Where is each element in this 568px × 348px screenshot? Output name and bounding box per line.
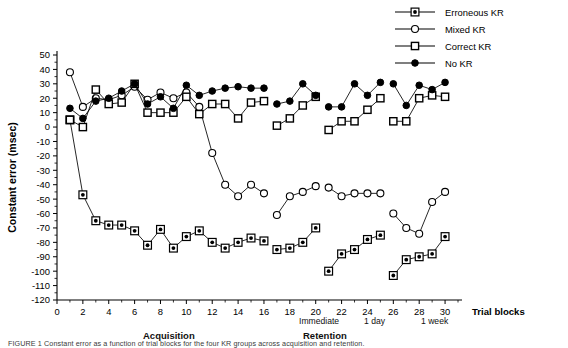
data-point-dot: [366, 238, 370, 242]
data-point: [416, 95, 423, 102]
data-point: [131, 81, 138, 88]
data-point: [351, 81, 358, 88]
data-point: [260, 98, 267, 105]
data-point-dot: [146, 243, 150, 247]
data-point: [247, 99, 254, 106]
retention-sub-immediate: Immediate: [299, 316, 339, 326]
data-point: [79, 123, 86, 130]
data-point: [442, 188, 449, 195]
data-point: [170, 105, 177, 112]
data-point: [222, 181, 229, 188]
legend-marker-2: [411, 42, 418, 49]
series-line: [277, 228, 316, 250]
data-point: [157, 93, 164, 100]
x-tick-label: 2: [80, 306, 85, 317]
data-point: [286, 193, 293, 200]
series-line: [277, 186, 316, 215]
data-point: [286, 115, 293, 122]
data-point: [312, 92, 319, 99]
y-tick-label: -10: [36, 136, 50, 147]
y-tick-label: -30: [36, 165, 50, 176]
y-tick-label: -90: [36, 251, 50, 262]
data-point-dot: [81, 193, 85, 197]
x-tick-label: 10: [181, 306, 191, 317]
data-point: [299, 102, 306, 109]
data-point-dot: [301, 240, 305, 244]
data-point: [390, 81, 397, 88]
data-point: [144, 101, 151, 108]
data-point: [274, 101, 281, 108]
data-point-dot: [443, 235, 447, 239]
data-point-dot: [378, 233, 382, 237]
data-point: [170, 95, 177, 102]
data-point-dot: [417, 255, 421, 259]
y-tick-label: -110: [32, 280, 50, 291]
data-point-dot: [288, 246, 292, 250]
data-point: [92, 86, 99, 93]
y-tick-label: 0: [45, 121, 50, 132]
data-point: [118, 99, 125, 106]
data-point: [209, 88, 216, 95]
data-point-dot: [327, 269, 331, 273]
data-point-dot: [159, 227, 163, 231]
data-point: [222, 100, 229, 107]
data-point: [66, 69, 73, 76]
y-tick-label: 10: [40, 107, 50, 118]
x-tick-label: 18: [285, 306, 295, 317]
data-point: [248, 85, 255, 92]
data-point-dot: [404, 258, 408, 262]
data-point: [364, 190, 371, 197]
data-point: [325, 104, 332, 111]
data-point: [441, 93, 448, 100]
x-tick-label: 14: [233, 306, 243, 317]
legend-label-1: Mixed KR: [445, 24, 486, 35]
legend-label-3: No KR: [445, 58, 473, 69]
data-point-dot: [184, 235, 188, 239]
data-point: [416, 82, 423, 89]
data-point: [183, 82, 190, 89]
data-point: [377, 79, 384, 86]
data-point: [364, 106, 371, 113]
legend-marker-3: [412, 60, 419, 67]
data-point: [351, 190, 358, 197]
data-point: [299, 188, 306, 195]
data-point-dot: [430, 252, 434, 256]
data-point: [93, 98, 100, 105]
figure-caption: FIGURE 1 Constant error as a function of…: [8, 340, 564, 348]
data-point-dot: [133, 229, 137, 233]
data-point: [222, 85, 229, 92]
data-point: [157, 109, 164, 116]
y-tick-label: -20: [36, 150, 50, 161]
data-point-dot: [197, 229, 201, 233]
x-tick-label: 0: [54, 306, 59, 317]
data-point: [377, 95, 384, 102]
data-point: [312, 183, 319, 190]
data-point-dot: [94, 219, 98, 223]
legend-marker-0-dot: [413, 10, 417, 14]
series-erroneous-kr: [66, 116, 449, 279]
data-point: [338, 118, 345, 125]
data-point: [429, 199, 436, 206]
data-point: [299, 81, 306, 88]
legend-marker-1: [412, 26, 419, 33]
chart-svg: 50403020100-10-20-30-40-50-60-70-80-90-1…: [0, 0, 568, 348]
data-point: [118, 88, 125, 95]
data-point: [429, 86, 436, 93]
y-axis-title: Constant error (msec): [6, 122, 18, 233]
x-tick-label: 4: [106, 306, 111, 317]
legend-label-2: Correct KR: [445, 41, 492, 52]
data-point: [209, 150, 216, 157]
data-point: [196, 103, 203, 110]
data-point: [235, 83, 242, 90]
x-tick-label: 8: [158, 306, 163, 317]
retention-sub-one-week: 1 week: [421, 316, 448, 326]
x-tick-label: 16: [259, 306, 269, 317]
data-point: [338, 193, 345, 200]
data-point: [67, 105, 74, 112]
series-line: [393, 192, 445, 234]
data-point: [416, 230, 423, 237]
y-tick-label: -80: [36, 237, 50, 248]
y-tick-label: -40: [36, 179, 50, 190]
data-point: [351, 118, 358, 125]
figure-container: 50403020100-10-20-30-40-50-60-70-80-90-1…: [0, 0, 568, 348]
